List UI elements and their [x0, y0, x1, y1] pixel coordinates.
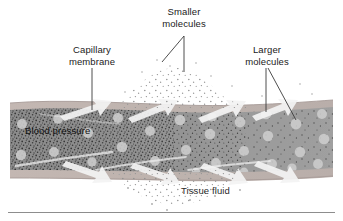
large-molecule [117, 142, 128, 153]
large-molecule [175, 115, 185, 125]
capillary-exchange-figure: Capillary membrane Smaller molecules Lar… [0, 0, 343, 221]
large-molecule [295, 147, 305, 157]
large-molecule [235, 117, 246, 128]
label-capillary-membrane: Capillary membrane [57, 44, 127, 67]
leader-smaller-molecules-a [162, 36, 184, 62]
large-molecule [317, 109, 327, 119]
capillary-illustration [0, 0, 343, 221]
large-molecule [291, 119, 302, 130]
large-molecule [87, 157, 96, 166]
label-larger-molecules: Larger molecules [232, 44, 302, 67]
small-molecules-dense-zone-2 [94, 100, 174, 182]
large-molecule [113, 113, 123, 123]
large-molecule [319, 134, 330, 145]
large-molecule [16, 150, 26, 160]
large-molecule [181, 145, 191, 155]
large-molecule [239, 146, 249, 156]
large-molecule [205, 129, 216, 140]
large-molecule [145, 126, 155, 136]
label-tissue-fluid: Tissue fluid [181, 185, 230, 197]
large-molecule [313, 159, 323, 169]
bottom-divider-rule [8, 212, 335, 213]
label-smaller-molecules: Smaller molecules [147, 6, 221, 29]
large-molecule [49, 147, 59, 157]
large-molecule [263, 131, 273, 141]
label-blood-pressure: Blood pressure [25, 125, 90, 137]
